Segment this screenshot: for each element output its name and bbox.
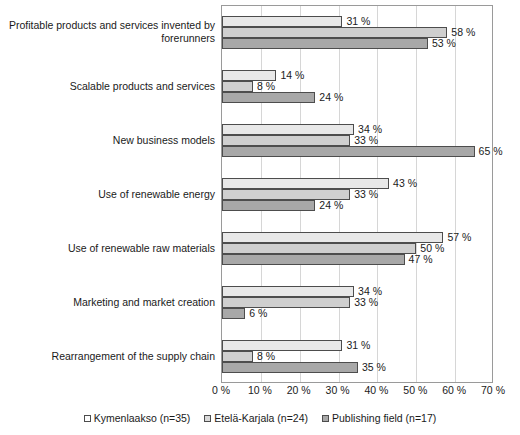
bar-etela-karjala: [222, 297, 350, 308]
bar-publishing-field: [222, 92, 315, 103]
bar-publishing-field: [222, 200, 315, 211]
bar-row: 33 %: [222, 297, 520, 308]
bar-row: 53 %: [222, 38, 520, 49]
bar-value-label: 8 %: [257, 80, 275, 92]
bar-value-label: 6 %: [249, 307, 267, 319]
bar-row: 65 %: [222, 146, 520, 157]
legend-label: Kymenlaakso (n=35): [94, 412, 191, 424]
bar-value-label: 57 %: [447, 231, 471, 243]
bar-value-label: 35 %: [362, 361, 386, 373]
x-tick-label: 50 %: [403, 384, 427, 396]
legend-swatch-icon: [322, 415, 329, 422]
bar-row: 57 %: [222, 232, 520, 243]
bar-row: 34 %: [222, 286, 520, 297]
category-label: Rearrangement of the supply chain: [5, 350, 215, 363]
category-label: New business models: [5, 134, 215, 147]
bar-etela-karjala: [222, 243, 416, 254]
legend-swatch-icon: [204, 415, 211, 422]
bar-publishing-field: [222, 308, 245, 319]
category-label: Use of renewable energy: [5, 188, 215, 201]
x-tick-label: 10 %: [248, 384, 272, 396]
bar-group: 57 % 50 % 47 %: [222, 221, 520, 275]
bar-kymenlaakso: [222, 340, 342, 351]
category-group: Rearrangement of the supply chain 31 % 8…: [0, 329, 520, 383]
bar-value-label: 24 %: [319, 199, 343, 211]
bar-value-label: 33 %: [354, 296, 378, 308]
bar-row: 35 %: [222, 362, 520, 373]
bar-kymenlaakso: [222, 232, 443, 243]
category-label: Scalable products and services: [5, 80, 215, 93]
legend-label: Publishing field (n=17): [332, 412, 436, 424]
x-tick-label: 30 %: [326, 384, 350, 396]
category-group: Scalable products and services 14 % 8 % …: [0, 59, 520, 113]
bar-kymenlaakso: [222, 178, 389, 189]
bar-etela-karjala: [222, 135, 350, 146]
bar-row: 14 %: [222, 70, 520, 81]
bar-row: 8 %: [222, 81, 520, 92]
category-label: Profitable products and services invente…: [5, 19, 215, 45]
bar-row: 31 %: [222, 16, 520, 27]
x-tick-label: 40 %: [364, 384, 388, 396]
bar-value-label: 8 %: [257, 350, 275, 362]
bar-etela-karjala: [222, 351, 253, 362]
bar-group: 34 % 33 % 6 %: [222, 275, 520, 329]
bar-kymenlaakso: [222, 286, 354, 297]
legend-swatch-icon: [84, 415, 91, 422]
bar-group: 14 % 8 % 24 %: [222, 59, 520, 113]
bar-value-label: 31 %: [346, 339, 370, 351]
bar-row: 6 %: [222, 308, 520, 319]
bar-row: 8 %: [222, 351, 520, 362]
bar-value-label: 33 %: [354, 188, 378, 200]
bar-value-label: 53 %: [432, 37, 456, 49]
bar-value-label: 65 %: [479, 145, 503, 157]
bar-etela-karjala: [222, 189, 350, 200]
bar-publishing-field: [222, 38, 428, 49]
bar-row: 31 %: [222, 340, 520, 351]
bar-kymenlaakso: [222, 70, 276, 81]
bar-publishing-field: [222, 362, 358, 373]
x-tick-label: 0 %: [212, 384, 230, 396]
bar-etela-karjala: [222, 27, 447, 38]
category-label: Marketing and market creation: [5, 296, 215, 309]
bar-value-label: 14 %: [280, 69, 304, 81]
bar-value-label: 24 %: [319, 91, 343, 103]
bar-row: 50 %: [222, 243, 520, 254]
bar-row: 47 %: [222, 254, 520, 265]
x-tick-label: 60 %: [442, 384, 466, 396]
bar-group: 43 % 33 % 24 %: [222, 167, 520, 221]
bar-group: 34 % 33 % 65 %: [222, 113, 520, 167]
bar-row: 24 %: [222, 92, 520, 103]
bar-value-label: 43 %: [393, 177, 417, 189]
bar-kymenlaakso: [222, 16, 342, 27]
bar-publishing-field: [222, 254, 405, 265]
bar-row: 43 %: [222, 178, 520, 189]
x-tick-label: 20 %: [287, 384, 311, 396]
bar-group: 31 % 8 % 35 %: [222, 329, 520, 383]
bar-kymenlaakso: [222, 124, 354, 135]
bar-row: 58 %: [222, 27, 520, 38]
bar-value-label: 33 %: [354, 134, 378, 146]
bar-row: 24 %: [222, 200, 520, 211]
legend: Kymenlaakso (n=35) Etelä-Karjala (n=24) …: [0, 412, 520, 424]
x-tick-label: 70 %: [481, 384, 505, 396]
bar-chart: Profitable products and services invente…: [0, 0, 520, 435]
bar-publishing-field: [222, 146, 475, 157]
legend-item-etela-karjala: Etelä-Karjala (n=24): [204, 412, 308, 424]
category-group: New business models 34 % 33 % 65 %: [0, 113, 520, 167]
bar-value-label: 31 %: [346, 15, 370, 27]
x-axis: 0 % 10 % 20 % 30 % 40 % 50 % 60 % 70 %: [221, 384, 493, 402]
category-group: Use of renewable raw materials 57 % 50 %…: [0, 221, 520, 275]
legend-label: Etelä-Karjala (n=24): [214, 412, 308, 424]
bar-value-label: 47 %: [409, 253, 433, 265]
bar-row: 34 %: [222, 124, 520, 135]
category-label: Use of renewable raw materials: [5, 242, 215, 255]
legend-item-kymenlaakso: Kymenlaakso (n=35): [84, 412, 191, 424]
bar-group: 31 % 58 % 53 %: [222, 5, 520, 59]
category-group: Profitable products and services invente…: [0, 5, 520, 59]
category-group: Use of renewable energy 43 % 33 % 24 %: [0, 167, 520, 221]
legend-item-publishing-field: Publishing field (n=17): [322, 412, 436, 424]
bar-etela-karjala: [222, 81, 253, 92]
category-rows: Profitable products and services invente…: [0, 5, 520, 383]
bar-row: 33 %: [222, 189, 520, 200]
category-group: Marketing and market creation 34 % 33 % …: [0, 275, 520, 329]
